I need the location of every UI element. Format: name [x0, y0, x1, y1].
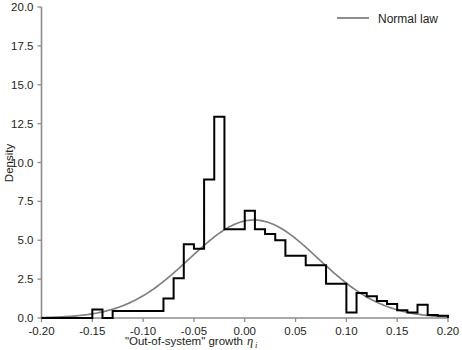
density-histogram-chart: 0.02.55.07.510.012.515.017.520.0 -0.20-0… — [0, 0, 462, 350]
x-axis-tick-label: 0.10 — [335, 325, 357, 337]
x-axis-tick-label: 0.05 — [284, 325, 306, 337]
y-axis-tick-label: 0.0 — [18, 312, 34, 324]
x-axis-title-text: "Out-of-system" growth — [125, 335, 243, 347]
chart-background — [0, 0, 462, 350]
y-axis-tick-label: 5.0 — [18, 234, 34, 246]
y-axis-tick-label: 7.5 — [18, 195, 34, 207]
y-axis-tick-label: 20.0 — [11, 1, 33, 13]
chart-figure: 0.02.55.07.510.012.515.017.520.0 -0.20-0… — [0, 0, 462, 350]
y-axis-tick-label: 15.0 — [11, 79, 33, 91]
x-axis-tick-label: -0.15 — [79, 325, 105, 337]
x-axis-title-symbol: η — [247, 334, 253, 348]
x-axis-tick-label: 0.15 — [386, 325, 408, 337]
legend-label-normal-law: Normal law — [378, 12, 438, 26]
x-axis-tick-label: -0.20 — [28, 325, 54, 337]
y-axis-tick-label: 2.5 — [18, 273, 34, 285]
y-axis-tick-label: 17.5 — [11, 40, 33, 52]
y-axis-tick-label: 12.5 — [11, 118, 33, 130]
x-axis-tick-label: 0.20 — [437, 325, 459, 337]
y-axis-title: Density — [3, 144, 15, 183]
